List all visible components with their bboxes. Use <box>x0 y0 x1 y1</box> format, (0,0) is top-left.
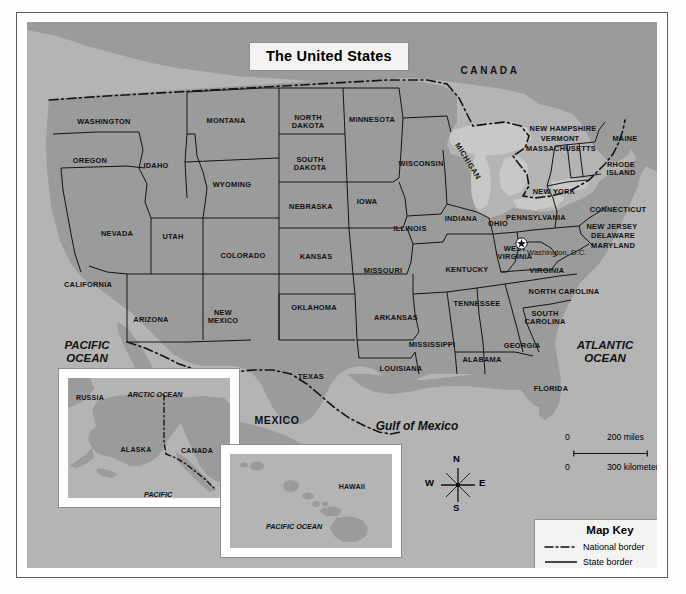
ocean-label-gulf-of-mexico: Gulf of Mexico <box>376 419 459 433</box>
state-label-pennsylvania: PENNSYLVANIA <box>506 214 566 223</box>
state-label-line: INDIANA <box>445 215 478 224</box>
state-label-new-mexico: NEWMEXICO <box>208 309 239 326</box>
state-label-mississippi: MISSISSIPPI <box>409 341 456 350</box>
map-key-row-state-border: State border <box>535 554 657 568</box>
state-label-minnesota: MINNESOTA <box>349 116 395 125</box>
ocean-pacific-line1: PACIFIC <box>64 339 109 352</box>
ocean-atlantic-line1: ATLANTIC <box>577 339 634 352</box>
map-key-label-state-border: State border <box>583 557 633 567</box>
map-page: The United States CANADA MEXICO PACIFIC … <box>0 0 686 594</box>
state-label-north-dakota: NORTHDAKOTA <box>292 114 325 131</box>
state-label-line: ILLINOIS <box>393 225 426 234</box>
state-label-connecticut: CONNECTICUT <box>590 206 647 215</box>
state-label-line: DELAWARE <box>591 232 635 241</box>
map-key-title: Map Key <box>535 524 657 536</box>
state-label-arkansas: ARKANSAS <box>374 314 418 323</box>
ocean-label-atlantic: ATLANTIC OCEAN <box>577 339 634 365</box>
state-label-line: ARKANSAS <box>374 314 418 323</box>
state-label-line: NEW HAMPSHIRE <box>530 125 597 134</box>
state-label-line: MISSISSIPPI <box>409 341 456 350</box>
state-label-idaho: IDAHO <box>143 162 168 171</box>
state-label-line: NEVADA <box>101 230 133 239</box>
state-label-line: MEXICO <box>208 317 239 325</box>
state-label-line: LOUISIANA <box>380 365 423 374</box>
state-label-montana: MONTANA <box>207 117 246 126</box>
state-label-massachusetts: MASSACHUSETTS <box>526 145 596 154</box>
state-label-rhode-island: RHODEISLAND <box>606 161 635 178</box>
alaska-label-canada: CANADA <box>181 447 213 455</box>
state-label-florida: FLORIDA <box>534 385 569 394</box>
state-label-line: WASHINGTON <box>77 118 130 127</box>
state-label-line: FLORIDA <box>534 385 569 394</box>
state-label-utah: UTAH <box>163 233 184 242</box>
alaska-label-russia: RUSSIA <box>76 394 104 402</box>
state-label-line: DAKOTA <box>292 122 325 130</box>
solid-line-icon <box>543 558 579 566</box>
state-label-line: WYOMING <box>213 181 252 190</box>
state-label-kentucky: KENTUCKY <box>445 266 488 275</box>
lake-erie <box>513 194 565 210</box>
scale-miles-zero: 0 <box>565 432 570 442</box>
country-label-canada: CANADA <box>461 65 520 76</box>
map-key-panel: Map Key National border State border <box>534 519 657 568</box>
state-label-indiana: INDIANA <box>445 215 478 224</box>
hawaii-label-pacific-ocean: PACIFIC OCEAN <box>266 523 322 531</box>
state-label-line: KANSAS <box>300 253 333 262</box>
state-label-new-york: NEW YORK <box>533 188 576 197</box>
state-label-iowa: IOWA <box>357 198 378 207</box>
scale-miles-value: 200 miles <box>607 432 644 442</box>
alaska-label-alaska: ALASKA <box>121 446 152 454</box>
state-label-line: NORTH CAROLINA <box>529 288 600 297</box>
state-label-missouri: MISSOURI <box>364 267 403 276</box>
state-label-line: GEORGIA <box>504 342 541 351</box>
compass-east-label: E <box>479 477 485 488</box>
state-label-illinois: ILLINOIS <box>393 225 426 234</box>
state-label-line: ALABAMA <box>462 356 501 365</box>
state-label-line: IOWA <box>357 198 378 207</box>
map-canvas: The United States CANADA MEXICO PACIFIC … <box>27 22 657 568</box>
compass-west-label: W <box>425 477 434 488</box>
compass-needle-icon <box>439 466 477 504</box>
scale-km-zero: 0 <box>565 462 570 472</box>
state-label-line: VERMONT <box>541 135 580 144</box>
state-label-line: MISSOURI <box>364 267 403 276</box>
map-title-box: The United States <box>249 42 409 71</box>
compass-south-label: S <box>453 502 459 513</box>
state-label-wyoming: WYOMING <box>213 181 252 190</box>
state-label-delaware: DELAWARE <box>591 232 635 241</box>
state-label-nebraska: NEBRASKA <box>289 203 333 212</box>
state-label-line: MASSACHUSETTS <box>526 145 596 154</box>
state-label-line: MAINE <box>612 135 637 144</box>
page-title: The United States <box>266 48 392 64</box>
state-label-line: ARIZONA <box>133 316 168 325</box>
hawaii-label-hawaii: HAWAII <box>339 483 366 491</box>
state-label-south-carolina: SOUTHCAROLINA <box>524 310 565 327</box>
state-label-line: DAKOTA <box>294 164 327 172</box>
state-label-colorado: COLORADO <box>220 252 265 261</box>
state-label-vermont: VERMONT <box>541 135 580 144</box>
state-label-arizona: ARIZONA <box>133 316 168 325</box>
state-label-maine: MAINE <box>612 135 637 144</box>
state-label-line: NEBRASKA <box>289 203 333 212</box>
state-label-kansas: KANSAS <box>300 253 333 262</box>
map-key-label-national-border: National border <box>583 542 645 552</box>
hawaii-geography <box>230 454 392 548</box>
state-label-line: VIRGINIA <box>530 267 565 276</box>
scale-km-value: 300 kilometers <box>607 462 657 472</box>
state-label-maryland: MARYLAND <box>591 242 635 251</box>
state-label-line: UTAH <box>163 233 184 242</box>
compass-rose: N S E W <box>427 454 489 516</box>
state-label-line: CALIFORNIA <box>64 281 112 290</box>
state-label-line: OKLAHOMA <box>291 304 337 313</box>
lake-huron <box>499 156 529 196</box>
hawaii-inset: HAWAII PACIFIC OCEAN <box>220 444 402 558</box>
scale-bar-graphic <box>565 450 657 457</box>
ocean-pacific-line2: OCEAN <box>64 352 109 365</box>
state-label-line: COLORADO <box>220 252 265 261</box>
map-key-row-national-border: National border <box>535 539 657 554</box>
dash-dot-line-icon <box>543 543 579 551</box>
state-label-line: PENNSYLVANIA <box>506 214 566 223</box>
state-label-line: KENTUCKY <box>445 266 488 275</box>
alaska-inset: RUSSIA ARCTIC OCEAN ALASKA CANADA PACIFI… <box>58 368 240 508</box>
state-label-tennessee: TENNESSEE <box>453 300 500 309</box>
